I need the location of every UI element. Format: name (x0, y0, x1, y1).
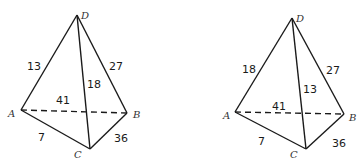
vertex-d-label: D (80, 10, 89, 21)
edge-ac (235, 112, 306, 149)
edge-bd-length: 27 (326, 64, 340, 77)
edge-bd-length: 27 (109, 60, 123, 73)
vertex-b-label: B (132, 109, 140, 120)
tetrahedra-diagram: D A B C 13 27 18 41 7 36 D A B C 18 27 1… (0, 0, 362, 166)
edge-ac-length: 7 (38, 131, 45, 144)
edge-ab-hidden (21, 110, 127, 113)
vertex-d-label: D (295, 13, 304, 24)
edge-ab-length: 41 (272, 100, 286, 113)
tetrahedron-left: D A B C 13 27 18 41 7 36 (7, 10, 140, 160)
edge-ad-length: 18 (242, 63, 256, 76)
edge-ad-length: 13 (27, 60, 41, 73)
tetrahedron-right: D A B C 18 27 13 41 7 36 (222, 13, 356, 160)
edge-cd-length: 13 (303, 83, 317, 96)
edge-ac (21, 110, 90, 149)
edge-ac-length: 7 (258, 135, 265, 148)
edge-cd-length: 18 (87, 78, 101, 91)
vertex-a-label: A (222, 110, 230, 121)
edge-ab-length: 41 (56, 94, 70, 107)
vertex-c-label: C (290, 149, 298, 160)
vertex-c-label: C (74, 149, 82, 160)
vertex-a-label: A (7, 108, 15, 119)
edge-bc-length: 36 (332, 137, 346, 150)
edge-ab-hidden (235, 112, 344, 114)
edge-bc-length: 36 (114, 132, 128, 145)
vertex-b-label: B (348, 112, 356, 123)
